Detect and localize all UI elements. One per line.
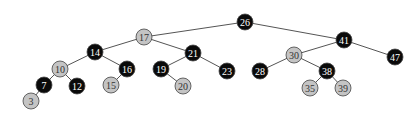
tree-node-35: 35 xyxy=(302,80,318,96)
node-label: 14 xyxy=(90,47,100,58)
tree-node-15: 15 xyxy=(103,77,119,93)
tree-node-10: 10 xyxy=(52,61,68,77)
node-label: 7 xyxy=(42,80,47,91)
node-label: 20 xyxy=(178,81,188,92)
tree-node-26: 26 xyxy=(237,14,253,30)
node-label: 10 xyxy=(55,64,65,75)
tree-node-20: 20 xyxy=(175,78,191,94)
tree-nodes: 26174114213047101619232838712152035393 xyxy=(23,14,403,109)
node-label: 35 xyxy=(305,83,315,94)
tree-node-28: 28 xyxy=(252,63,268,79)
node-label: 23 xyxy=(222,66,232,77)
node-label: 30 xyxy=(289,50,299,61)
red-black-tree-diagram: 26174114213047101619232838712152035393 xyxy=(0,0,414,120)
node-label: 12 xyxy=(72,81,82,92)
tree-node-21: 21 xyxy=(185,45,201,61)
tree-node-23: 23 xyxy=(219,63,235,79)
tree-node-12: 12 xyxy=(69,78,85,94)
tree-node-17: 17 xyxy=(136,29,152,45)
edge-26-17 xyxy=(144,22,245,37)
edge-26-41 xyxy=(245,22,344,40)
tree-node-47: 47 xyxy=(387,49,403,65)
tree-node-38: 38 xyxy=(319,63,335,79)
node-label: 3 xyxy=(29,96,34,107)
node-label: 15 xyxy=(106,80,116,91)
tree-node-7: 7 xyxy=(36,77,52,93)
node-label: 39 xyxy=(338,83,348,94)
tree-node-19: 19 xyxy=(153,61,169,77)
tree-node-3: 3 xyxy=(23,93,39,109)
tree-node-30: 30 xyxy=(286,47,302,63)
node-label: 38 xyxy=(322,66,332,77)
node-label: 16 xyxy=(122,64,132,75)
node-label: 41 xyxy=(339,35,349,46)
node-label: 21 xyxy=(188,48,198,59)
node-label: 28 xyxy=(255,66,265,77)
node-label: 19 xyxy=(156,64,166,75)
tree-node-14: 14 xyxy=(87,44,103,60)
tree-node-16: 16 xyxy=(119,61,135,77)
tree-node-39: 39 xyxy=(335,80,351,96)
node-label: 47 xyxy=(390,52,400,63)
node-label: 17 xyxy=(139,32,149,43)
tree-node-41: 41 xyxy=(336,32,352,48)
node-label: 26 xyxy=(240,17,250,28)
